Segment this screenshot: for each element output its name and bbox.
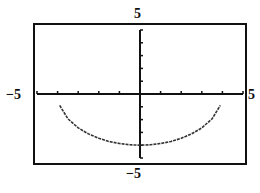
- plot-canvas: [0, 0, 260, 193]
- y-max-label: 5: [134, 7, 141, 21]
- x-min-label: −5: [6, 88, 21, 102]
- axes: [37, 30, 243, 158]
- x-max-label: 5: [248, 88, 255, 102]
- y-min-label: −5: [126, 167, 141, 181]
